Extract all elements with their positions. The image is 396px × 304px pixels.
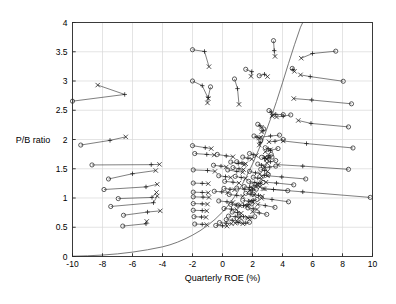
- chart-figure: -10-8-6-4-20246810 00.511.522.533.54 Qua…: [0, 0, 396, 304]
- y-tick-label: 3.5: [56, 47, 68, 57]
- x-tick-label: 8: [340, 259, 345, 269]
- y-tick-label: 0: [63, 252, 68, 262]
- x-tick-label: 6: [310, 259, 315, 269]
- y-axis-title: P/B ratio: [16, 135, 51, 145]
- x-tick-label: 0: [220, 259, 225, 269]
- x-tick-label: -6: [129, 259, 137, 269]
- y-tick-label: 1: [63, 193, 68, 203]
- x-axis-title: Quarterly ROE (%): [185, 273, 261, 283]
- x-tick-label: -8: [99, 259, 107, 269]
- y-tick-label: 0.5: [56, 222, 68, 232]
- figure-background: [0, 0, 396, 304]
- y-tick-label: 4: [63, 18, 68, 28]
- scatter-plot: -10-8-6-4-20246810 00.511.522.533.54 Qua…: [0, 0, 396, 304]
- y-tick-label: 2.5: [56, 105, 68, 115]
- y-tick-label: 3: [63, 76, 68, 86]
- x-tick-label: -4: [159, 259, 167, 269]
- y-tick-label: 1.5: [56, 164, 68, 174]
- x-tick-label: -10: [66, 259, 79, 269]
- x-tick-label: 4: [280, 259, 285, 269]
- x-tick-label: -2: [189, 259, 197, 269]
- x-tick-label: 10: [368, 259, 378, 269]
- y-tick-label: 2: [63, 135, 68, 145]
- x-tick-label: 2: [250, 259, 255, 269]
